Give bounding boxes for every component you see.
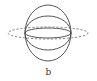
meridian-ellipses bbox=[25, 5, 71, 61]
meridian-ellipse bbox=[25, 5, 71, 61]
meridian-ellipse bbox=[25, 16, 71, 50]
meridian-ellipse bbox=[25, 28, 71, 38]
equator-dashed-ellipse bbox=[8, 27, 88, 39]
figure-caption: b bbox=[0, 67, 97, 77]
